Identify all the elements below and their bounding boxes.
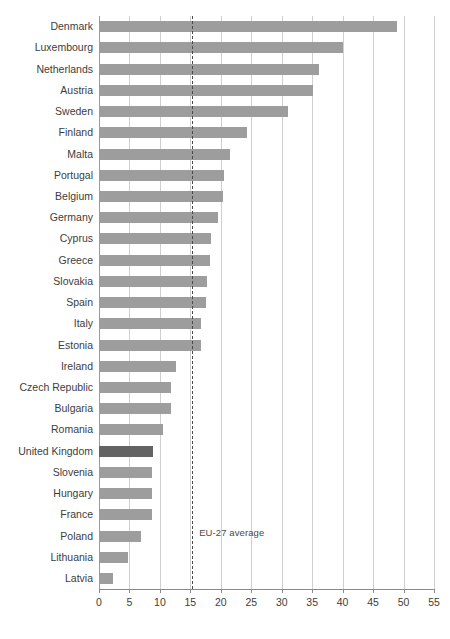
bar-malta [99, 149, 230, 160]
bar-row [99, 334, 434, 356]
category-label-germany: Germany [0, 212, 93, 223]
bar-row [99, 207, 434, 229]
x-tick-label-30: 30 [267, 596, 297, 609]
x-tick-5 [129, 589, 130, 593]
bar-row [99, 483, 434, 505]
x-tick-25 [251, 589, 252, 593]
category-label-lithuania: Lithuania [0, 552, 93, 563]
bar-portugal [99, 170, 224, 181]
category-label-hungary: Hungary [0, 488, 93, 499]
x-tick-label-5: 5 [114, 596, 144, 609]
category-label-latvia: Latvia [0, 573, 93, 584]
category-label-austria: Austria [0, 85, 93, 96]
x-tick-label-15: 15 [175, 596, 205, 609]
bar-row [99, 249, 434, 271]
category-label-romania: Romania [0, 424, 93, 435]
bar-row [99, 228, 434, 250]
x-tick-50 [404, 589, 405, 593]
category-label-finland: Finland [0, 127, 93, 138]
category-label-czech-republic: Czech Republic [0, 382, 93, 393]
x-tick-15 [190, 589, 191, 593]
category-label-cyprus: Cyprus [0, 233, 93, 244]
x-tick-label-0: 0 [84, 596, 114, 609]
category-label-netherlands: Netherlands [0, 64, 93, 75]
bar-row [99, 186, 434, 208]
bar-row [99, 37, 434, 59]
category-label-luxembourg: Luxembourg [0, 42, 93, 53]
bar-row [99, 101, 434, 123]
x-tick-label-20: 20 [206, 596, 236, 609]
x-tick-35 [312, 589, 313, 593]
bar-row [99, 568, 434, 590]
bar-denmark [99, 21, 397, 32]
bar-hungary [99, 488, 152, 499]
bar-cyprus [99, 233, 211, 244]
category-label-denmark: Denmark [0, 21, 93, 32]
bar-row [99, 462, 434, 484]
category-label-sweden: Sweden [0, 106, 93, 117]
bar-row [99, 271, 434, 293]
bar-row [99, 165, 434, 187]
bar-latvia [99, 573, 113, 584]
category-label-portugal: Portugal [0, 170, 93, 181]
bar-row [99, 504, 434, 526]
x-tick-45 [373, 589, 374, 593]
category-label-slovenia: Slovenia [0, 467, 93, 478]
category-label-italy: Italy [0, 318, 93, 329]
bar-row [99, 377, 434, 399]
category-label-malta: Malta [0, 149, 93, 160]
category-label-france: France [0, 509, 93, 520]
x-tick-10 [160, 589, 161, 593]
x-tick-label-25: 25 [236, 596, 266, 609]
x-tick-30 [282, 589, 283, 593]
x-axis-line [99, 589, 435, 590]
bar-row [99, 398, 434, 420]
bar-belgium [99, 191, 223, 202]
bar-lithuania [99, 552, 128, 563]
bar-poland [99, 531, 141, 542]
bar-united-kingdom [99, 446, 153, 457]
bar-czech-republic [99, 382, 171, 393]
bar-luxembourg [99, 42, 343, 53]
bar-ireland [99, 361, 176, 372]
bar-row [99, 419, 434, 441]
bar-italy [99, 318, 201, 329]
bar-finland [99, 127, 247, 138]
bar-slovakia [99, 276, 207, 287]
bar-row [99, 122, 434, 144]
bar-romania [99, 424, 163, 435]
bar-row [99, 525, 434, 547]
x-tick-55 [434, 589, 435, 593]
bar-row [99, 143, 434, 165]
bar-france [99, 509, 152, 520]
bar-row [99, 292, 434, 314]
plot-area: EU-27 average [99, 16, 434, 589]
category-label-poland: Poland [0, 531, 93, 542]
x-tick-label-10: 10 [145, 596, 175, 609]
x-tick-label-40: 40 [328, 596, 358, 609]
bar-germany [99, 212, 218, 223]
category-label-spain: Spain [0, 297, 93, 308]
gridline-55 [434, 16, 435, 589]
bar-row [99, 313, 434, 335]
eu-average-dashed-line [192, 16, 193, 589]
bar-row [99, 58, 434, 80]
category-label-slovakia: Slovakia [0, 276, 93, 287]
category-label-greece: Greece [0, 255, 93, 266]
category-label-estonia: Estonia [0, 340, 93, 351]
eu-average-label: EU-27 average [199, 527, 264, 538]
x-tick-label-45: 45 [358, 596, 388, 609]
bar-spain [99, 297, 206, 308]
category-label-ireland: Ireland [0, 361, 93, 372]
bar-row [99, 440, 434, 462]
x-tick-label-50: 50 [389, 596, 419, 609]
bar-slovenia [99, 467, 152, 478]
bar-sweden [99, 106, 288, 117]
x-tick-label-55: 55 [419, 596, 449, 609]
x-tick-0 [99, 589, 100, 593]
category-label-bulgaria: Bulgaria [0, 403, 93, 414]
bar-row [99, 356, 434, 378]
bar-estonia [99, 340, 201, 351]
bar-austria [99, 85, 313, 96]
x-tick-40 [343, 589, 344, 593]
